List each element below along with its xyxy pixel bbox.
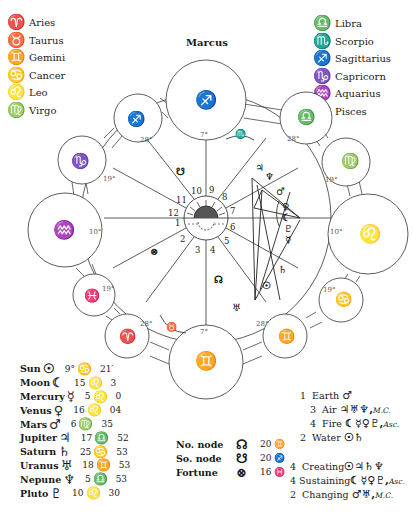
house-number-11: 11 bbox=[176, 195, 187, 205]
planet-row-neptune: Nepune♆5♎53 bbox=[20, 472, 130, 486]
elements-summary: 1 Earth ♂ 3 Air ♃♅♆,M.C. 4 Fire ☾☿♀♇,Asc… bbox=[300, 389, 399, 445]
venus-icon: ♀ bbox=[54, 403, 64, 418]
cusp-degree: 7° bbox=[200, 328, 208, 336]
cusp-degree: 19° bbox=[103, 175, 115, 183]
planet-name: Sun bbox=[20, 363, 41, 374]
element-row-earth: 1 Earth ♂ bbox=[300, 389, 399, 403]
cancer-icon: ♋ bbox=[77, 362, 92, 376]
planet-degree: 5 bbox=[85, 474, 91, 484]
aries-icon: ♈ bbox=[119, 328, 136, 345]
libra-icon: ♎ bbox=[94, 431, 109, 445]
planet-minutes: 04 bbox=[110, 405, 121, 415]
planet-row-moon: Moon☾15♌3 bbox=[20, 376, 130, 390]
cusp-circles: ♐ 7° ♎ 28° ♍ 19° ♌ 10° ♋ 19° ♊ 28° bbox=[28, 60, 408, 399]
north-node-icon: ☊ bbox=[214, 274, 223, 285]
cusp-bottom: ♊ 7° bbox=[169, 325, 243, 399]
cusp-aries: ♈ 28° bbox=[105, 314, 152, 358]
mode-planets: ♂♅, bbox=[352, 488, 376, 501]
saturn-icon: ♄ bbox=[278, 264, 287, 275]
element-count: 1 bbox=[300, 390, 306, 401]
leo-icon: ♌ bbox=[86, 486, 101, 500]
cusp-degree: 28° bbox=[140, 320, 152, 328]
house-numbers: 1 2 3 4 5 6 7 8 9 10 11 12 bbox=[168, 185, 235, 255]
neptune-icon: ♆ bbox=[63, 472, 75, 487]
libra-icon: ♎ bbox=[93, 472, 108, 486]
planet-row-uranus: Uranus♅18♊53 bbox=[20, 459, 130, 473]
node-value: 20 ♐ bbox=[260, 453, 285, 463]
planet-row-saturn: Saturn♄25♋53 bbox=[20, 445, 130, 459]
virgo-icon: ♍ bbox=[78, 417, 93, 431]
house-number-1: 1 bbox=[175, 218, 180, 228]
element-count: 2 bbox=[300, 432, 306, 443]
chart-planets: ☋ ♃ ♆ ♂ ♀ ☾ ♇ ☿ ♄ ☉ ☊ ♅ ⊗ bbox=[150, 162, 293, 313]
mercury-icon: ☿ bbox=[285, 234, 291, 245]
nodes-table: No. node☊20 ♊ So. node☋20 ♐ Fortune⊗16 ♓ bbox=[176, 437, 285, 479]
planet-minutes: 53 bbox=[116, 447, 127, 457]
house-number-6: 6 bbox=[230, 222, 235, 232]
sun-emblem bbox=[184, 196, 228, 240]
planet-row-jupiter: Jupiter♃17♎52 bbox=[20, 431, 130, 445]
mode-label: Sustaining bbox=[299, 475, 350, 486]
planet-degree: 5 bbox=[85, 391, 91, 401]
capricorn-icon: ♑ bbox=[71, 152, 90, 170]
node-label: No. node bbox=[176, 439, 236, 450]
cusp-capricorn: ♑ 19° bbox=[58, 136, 115, 184]
planet-row-sun: Sun☉9°♋21′ bbox=[20, 362, 130, 376]
element-label: Air bbox=[322, 404, 336, 415]
element-planets: ♃♅♆, bbox=[340, 403, 373, 416]
element-planets: ☾☿♀♇, bbox=[345, 417, 383, 430]
planet-row-venus: Venus♀16♌04 bbox=[20, 403, 130, 417]
planet-degree: 16 bbox=[73, 405, 84, 415]
cusp-libra: ♎ 28° bbox=[280, 92, 332, 144]
node-value: 16 ♓ bbox=[260, 467, 285, 477]
house-number-4: 4 bbox=[210, 245, 215, 255]
cusp-leo: ♌ 10° bbox=[328, 194, 408, 274]
planet-row-mercury: Mercury☿5♌0 bbox=[20, 390, 130, 404]
cusp-degree: 7° bbox=[200, 131, 208, 139]
mercury-icon: ☿ bbox=[67, 389, 75, 404]
cusp-cancer: ♋ 19° bbox=[319, 278, 363, 322]
mode-count: 4 bbox=[290, 461, 296, 472]
cusp-pisces: ♓ 19° bbox=[73, 274, 115, 316]
element-planets: ☉♄ bbox=[344, 431, 364, 444]
jupiter-icon: ♃ bbox=[59, 430, 71, 445]
mode-count: 2 bbox=[290, 489, 296, 500]
planet-name: Pluto bbox=[20, 488, 48, 499]
mode-row-creating: 4 Creating☉♃♄♆ bbox=[290, 460, 405, 474]
pisces-icon: ♓ bbox=[84, 288, 100, 303]
house-number-3: 3 bbox=[195, 245, 200, 255]
planet-degree: 25 bbox=[80, 447, 91, 457]
house-number-12: 12 bbox=[168, 208, 179, 218]
fortune-icon: ⊗ bbox=[150, 246, 158, 257]
cancer-icon: ♋ bbox=[93, 445, 108, 459]
house-number-10: 10 bbox=[191, 186, 202, 196]
planet-name: Venus bbox=[20, 405, 52, 416]
gemini-icon: ♊ bbox=[278, 328, 295, 345]
planet-minutes: 35 bbox=[101, 419, 112, 429]
aquarius-icon: ♒ bbox=[53, 219, 75, 240]
mode-label: Creating bbox=[302, 461, 344, 472]
cusp-degree: 28° bbox=[140, 136, 152, 144]
mode-extra: Asc. bbox=[389, 477, 405, 486]
planet-name: Jupiter bbox=[20, 432, 57, 443]
element-row-air: 3 Air ♃♅♆,M.C. bbox=[300, 403, 399, 417]
element-extra: Asc. bbox=[383, 420, 399, 429]
sagittarius-icon: ♐ bbox=[127, 110, 146, 128]
mode-planets: ☉♃♄♆ bbox=[344, 460, 384, 473]
planet-name: Moon bbox=[20, 377, 50, 388]
leo-icon: ♌ bbox=[88, 376, 103, 390]
planet-name: Mercury bbox=[20, 391, 65, 402]
house-number-7: 7 bbox=[230, 206, 235, 216]
mode-count: 4 bbox=[290, 475, 296, 486]
cusp-top: ♐ 7° bbox=[166, 60, 246, 140]
planet-minutes: 0 bbox=[116, 391, 122, 401]
element-extra: M.C. bbox=[373, 406, 391, 415]
cusp-degree: 19° bbox=[102, 285, 114, 293]
cusp-gemini-28: ♊ 28° bbox=[256, 314, 307, 358]
pluto-icon: ♇ bbox=[50, 486, 62, 501]
neptune-icon: ♆ bbox=[265, 171, 274, 182]
planet-name: Uranus bbox=[20, 460, 59, 471]
node-label: So. node bbox=[176, 453, 236, 464]
element-row-water: 2 Water ☉♄ bbox=[300, 431, 399, 445]
planet-row-mars: Mars♂6♍35 bbox=[20, 417, 130, 431]
